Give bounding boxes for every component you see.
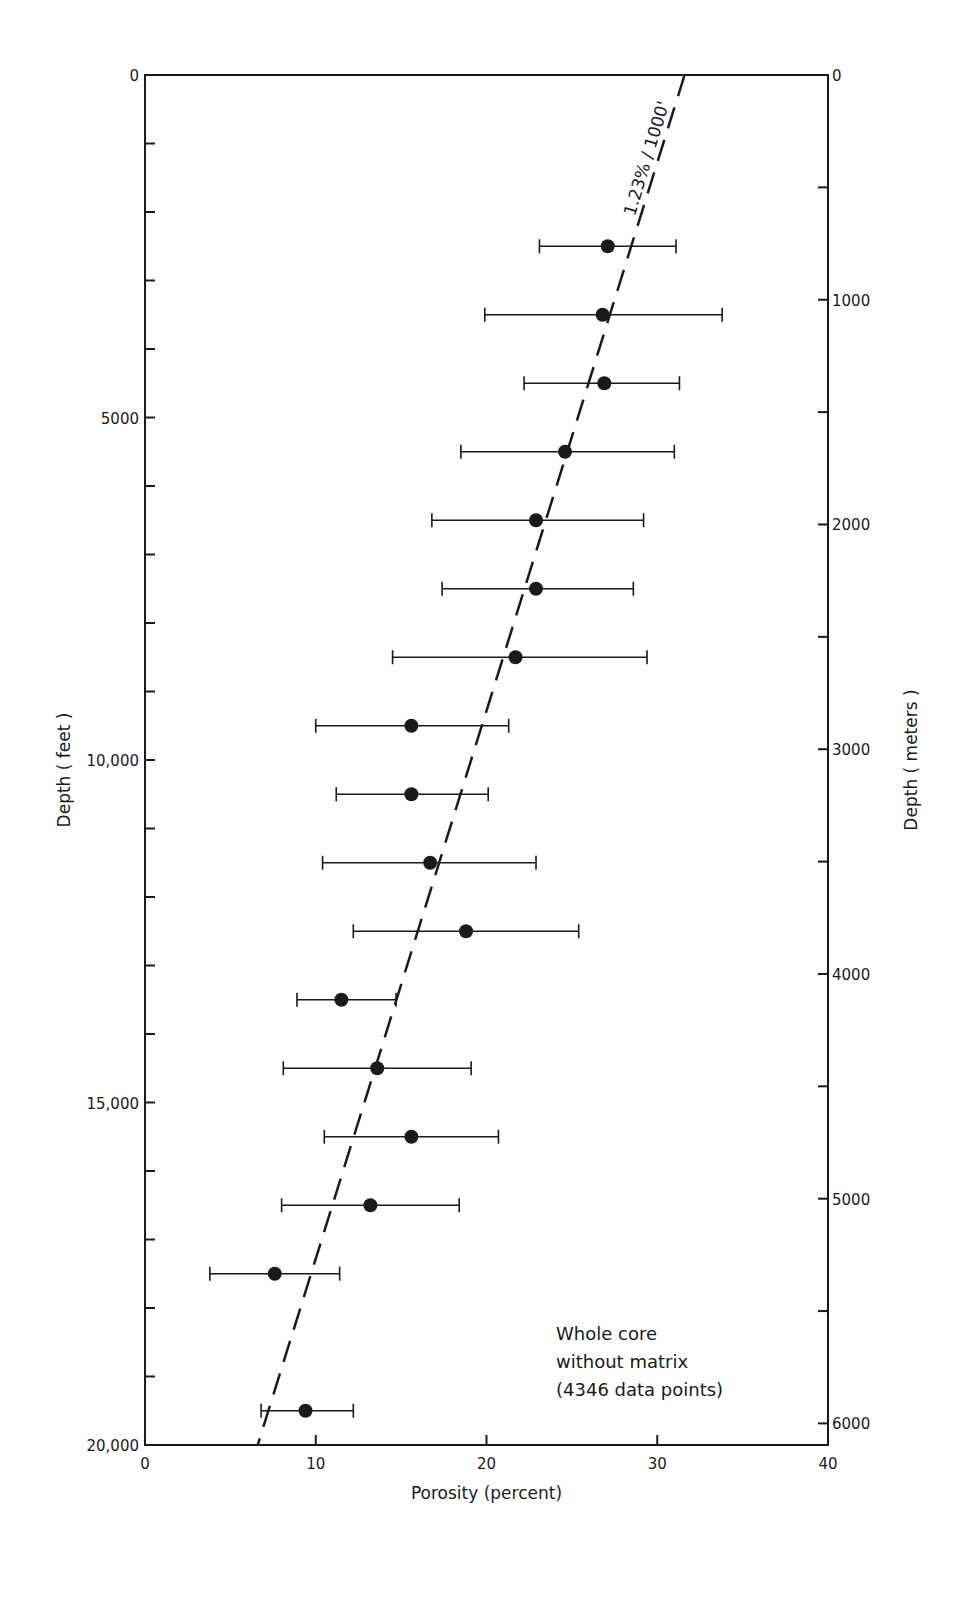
right-tick-label: 3000 (832, 741, 870, 759)
data-point (596, 308, 610, 322)
trend-line-label: 1.23% / 1000' (619, 99, 673, 218)
plot-frame (145, 75, 828, 1445)
data-point (459, 924, 473, 938)
data-point (404, 719, 418, 733)
data-point (423, 856, 437, 870)
right-tick-label: 2000 (832, 516, 870, 534)
x-tick-label: 20 (477, 1455, 496, 1473)
data-point (558, 445, 572, 459)
data-point (597, 376, 611, 390)
data-point (529, 582, 543, 596)
annotation-line: without matrix (556, 1351, 688, 1372)
right-tick-label: 5000 (832, 1191, 870, 1209)
data-point (509, 650, 523, 664)
x-axis-label: Porosity (percent) (411, 1483, 562, 1503)
data-point (370, 1061, 384, 1075)
right-tick-label: 4000 (832, 966, 870, 984)
data-point (404, 787, 418, 801)
data-point (404, 1130, 418, 1144)
annotation-line: (4346 data points) (556, 1379, 723, 1400)
data-point (299, 1404, 313, 1418)
data-point (268, 1267, 282, 1281)
trend-line (258, 75, 685, 1445)
x-tick-label: 30 (648, 1455, 667, 1473)
y-axis-label-left: Depth ( feet ) (54, 713, 74, 828)
porosity-depth-chart: 0500010,00015,00020,00001000200030004000… (0, 0, 977, 1616)
right-tick-label: 1000 (832, 292, 870, 310)
right-tick-label: 0 (832, 67, 842, 85)
data-point (601, 239, 615, 253)
x-tick-label: 40 (818, 1455, 837, 1473)
x-tick-label: 10 (306, 1455, 325, 1473)
data-point (363, 1198, 377, 1212)
data-point (529, 513, 543, 527)
left-tick-label: 0 (129, 67, 139, 85)
left-tick-label: 20,000 (87, 1437, 140, 1455)
data-point (334, 993, 348, 1007)
right-tick-label: 6000 (832, 1415, 870, 1433)
left-tick-label: 15,000 (87, 1095, 140, 1113)
left-tick-label: 10,000 (87, 752, 140, 770)
left-tick-label: 5000 (101, 410, 139, 428)
annotation-line: Whole core (556, 1323, 657, 1344)
y-axis-label-right: Depth ( meters ) (901, 689, 921, 830)
x-tick-label: 0 (140, 1455, 150, 1473)
